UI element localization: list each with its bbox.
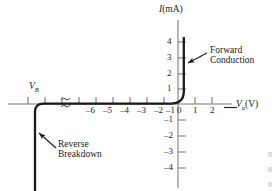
y-tick-label-1: 1 [167,84,172,93]
reverse-breakdown-line2: Breakdown [58,150,102,160]
y-axis-title: I(mA) [159,5,183,15]
x-tick-label-minus-3: –3 [137,106,146,115]
breakdown-voltage-subscript: B [35,86,39,93]
y-tick-label-minus-3: –3 [164,147,173,156]
forward-conduction-arrow [188,53,207,63]
y-tick-label-minus-1: –1 [164,115,173,124]
forward-conduction-annotation: Forward Conduction [210,46,254,66]
x-tick-label-minus-4: –4 [120,106,129,115]
x-tick-label-minus-2: –2 [154,106,163,115]
diode-iv-characteristic-figure: I(mA) Va(V) 4 3 2 1 –1 –2 –3 –4 –6 –5 –4… [0,0,272,191]
x-tick-label-minus-1: –1 [166,106,175,115]
forward-conduction-segment [171,37,184,104]
y-axis-title-unit: (mA) [162,4,183,14]
y-tick-label-3: 3 [167,53,172,62]
y-tick-label-minus-2: –2 [164,131,173,140]
x-tick-label-2: 2 [210,106,215,115]
y-tick-label-2: 2 [167,69,172,78]
reverse-breakdown-arrow [39,133,56,148]
x-axis-title-unit: (V) [245,99,258,109]
page-edge-artifacts [268,152,272,187]
y-tick-label-minus-4: –4 [164,163,173,172]
reverse-breakdown-annotation: Reverse Breakdown [58,140,102,160]
x-tick-label-minus-6: –6 [86,106,95,115]
iv-curve-plot [0,0,272,191]
breakdown-voltage-label: VB [29,82,39,94]
x-tick-label-minus-5: –5 [103,106,112,115]
x-axis-title-leader [224,106,238,109]
forward-conduction-line2: Conduction [210,56,254,66]
y-tick-label-4: 4 [167,37,172,46]
x-tick-label-1: 1 [193,106,198,115]
x-axis-title: Va(V) [236,100,258,112]
x-tick-label-0: 0 [177,106,182,115]
